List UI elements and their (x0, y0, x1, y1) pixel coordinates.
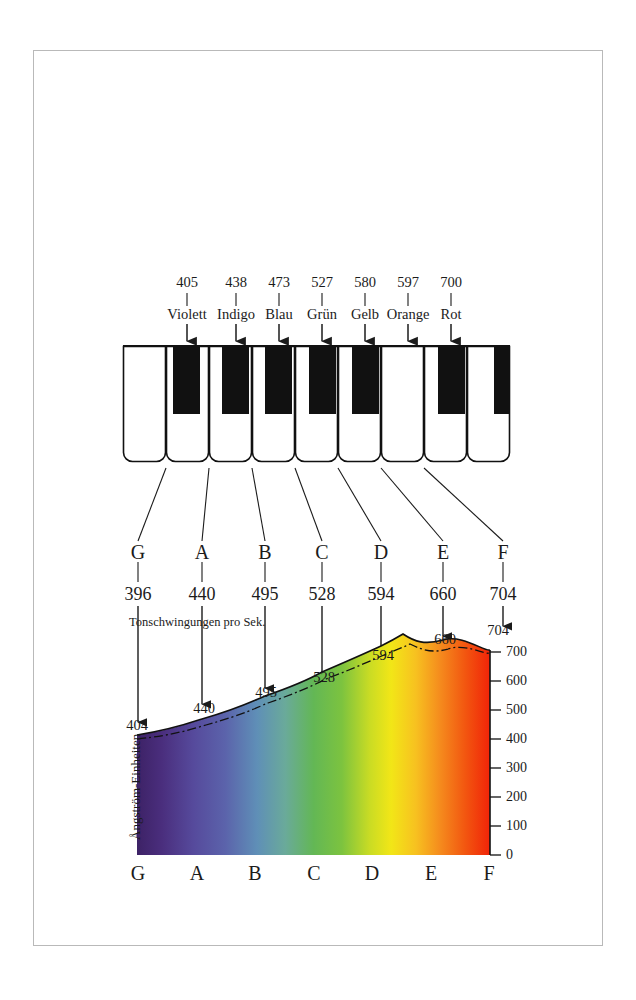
frequency-value-b: 495 (252, 584, 279, 605)
y-tick-0: 0 (506, 847, 513, 863)
curve-point-label-3: 528 (313, 669, 335, 686)
x-axis-label-d: D (365, 862, 379, 885)
note-to-frequency-connectors (138, 562, 503, 582)
x-axis-label-b: B (248, 862, 261, 885)
frequency-value-f: 704 (490, 584, 517, 605)
frequency-value-c: 528 (309, 584, 336, 605)
wavelength-tick-marks (187, 293, 451, 306)
curve-point-label-5: 660 (434, 631, 456, 648)
note-letter-a: A (195, 541, 209, 564)
note-letter-c: C (315, 541, 328, 564)
y-tick-400: 400 (506, 731, 527, 747)
wavelength-value-orange: 597 (397, 274, 419, 291)
y-axis-title: Ångström-Einheiten (128, 734, 144, 840)
x-axis-label-e: E (425, 862, 437, 885)
color-to-key-arrows (187, 324, 451, 341)
y-tick-600: 600 (506, 673, 527, 689)
curve-point-label-2: 495 (255, 684, 277, 701)
curve-point-label-1: 440 (193, 700, 215, 717)
note-letter-e: E (437, 541, 449, 564)
note-letter-d: D (374, 541, 388, 564)
y-tick-200: 200 (506, 789, 527, 805)
y-tick-700: 700 (506, 644, 527, 660)
curve-point-label-0: 404 (126, 717, 148, 734)
frequency-value-d: 594 (368, 584, 395, 605)
color-label-orange: Orange (387, 306, 430, 323)
frequency-value-e: 660 (430, 584, 457, 605)
key-to-note-leaders (138, 468, 503, 541)
color-label-indigo: Indigo (217, 306, 255, 323)
spectrum-area-chart (137, 634, 501, 855)
y-tick-100: 100 (506, 818, 527, 834)
wavelength-value-gelb: 580 (354, 274, 376, 291)
wavelength-value-blau: 473 (268, 274, 290, 291)
wavelength-value-gruen: 527 (311, 274, 333, 291)
color-label-blau: Blau (265, 306, 292, 323)
note-letter-g: G (131, 541, 145, 564)
x-axis-label-g: G (131, 862, 145, 885)
note-letter-f: F (497, 541, 508, 564)
color-label-gruen: Grün (307, 306, 337, 323)
wavelength-value-indigo: 438 (225, 274, 247, 291)
spectrum-fill (137, 634, 490, 855)
x-axis-label-f: F (483, 862, 494, 885)
y-tick-300: 300 (506, 760, 527, 776)
y-tick-500: 500 (506, 702, 527, 718)
frequency-value-g: 396 (125, 584, 152, 605)
color-label-gelb: Gelb (351, 306, 379, 323)
figure-graphic (0, 0, 636, 1000)
y-axis-ticks (490, 652, 501, 855)
x-axis-label-a: A (190, 862, 204, 885)
wavelength-value-rot: 700 (440, 274, 462, 291)
piano-keyboard (123, 346, 510, 462)
frequency-value-a: 440 (189, 584, 216, 605)
wavelength-value-violett: 405 (176, 274, 198, 291)
curve-point-label-4: 594 (372, 647, 394, 664)
note-letter-b: B (258, 541, 271, 564)
color-label-violett: Violett (167, 306, 206, 323)
x-axis-label-c: C (307, 862, 320, 885)
color-label-rot: Rot (441, 306, 462, 323)
frequency-caption: Tonschwingungen pro Sek. (129, 615, 265, 630)
curve-point-label-6: 704 (487, 622, 509, 639)
